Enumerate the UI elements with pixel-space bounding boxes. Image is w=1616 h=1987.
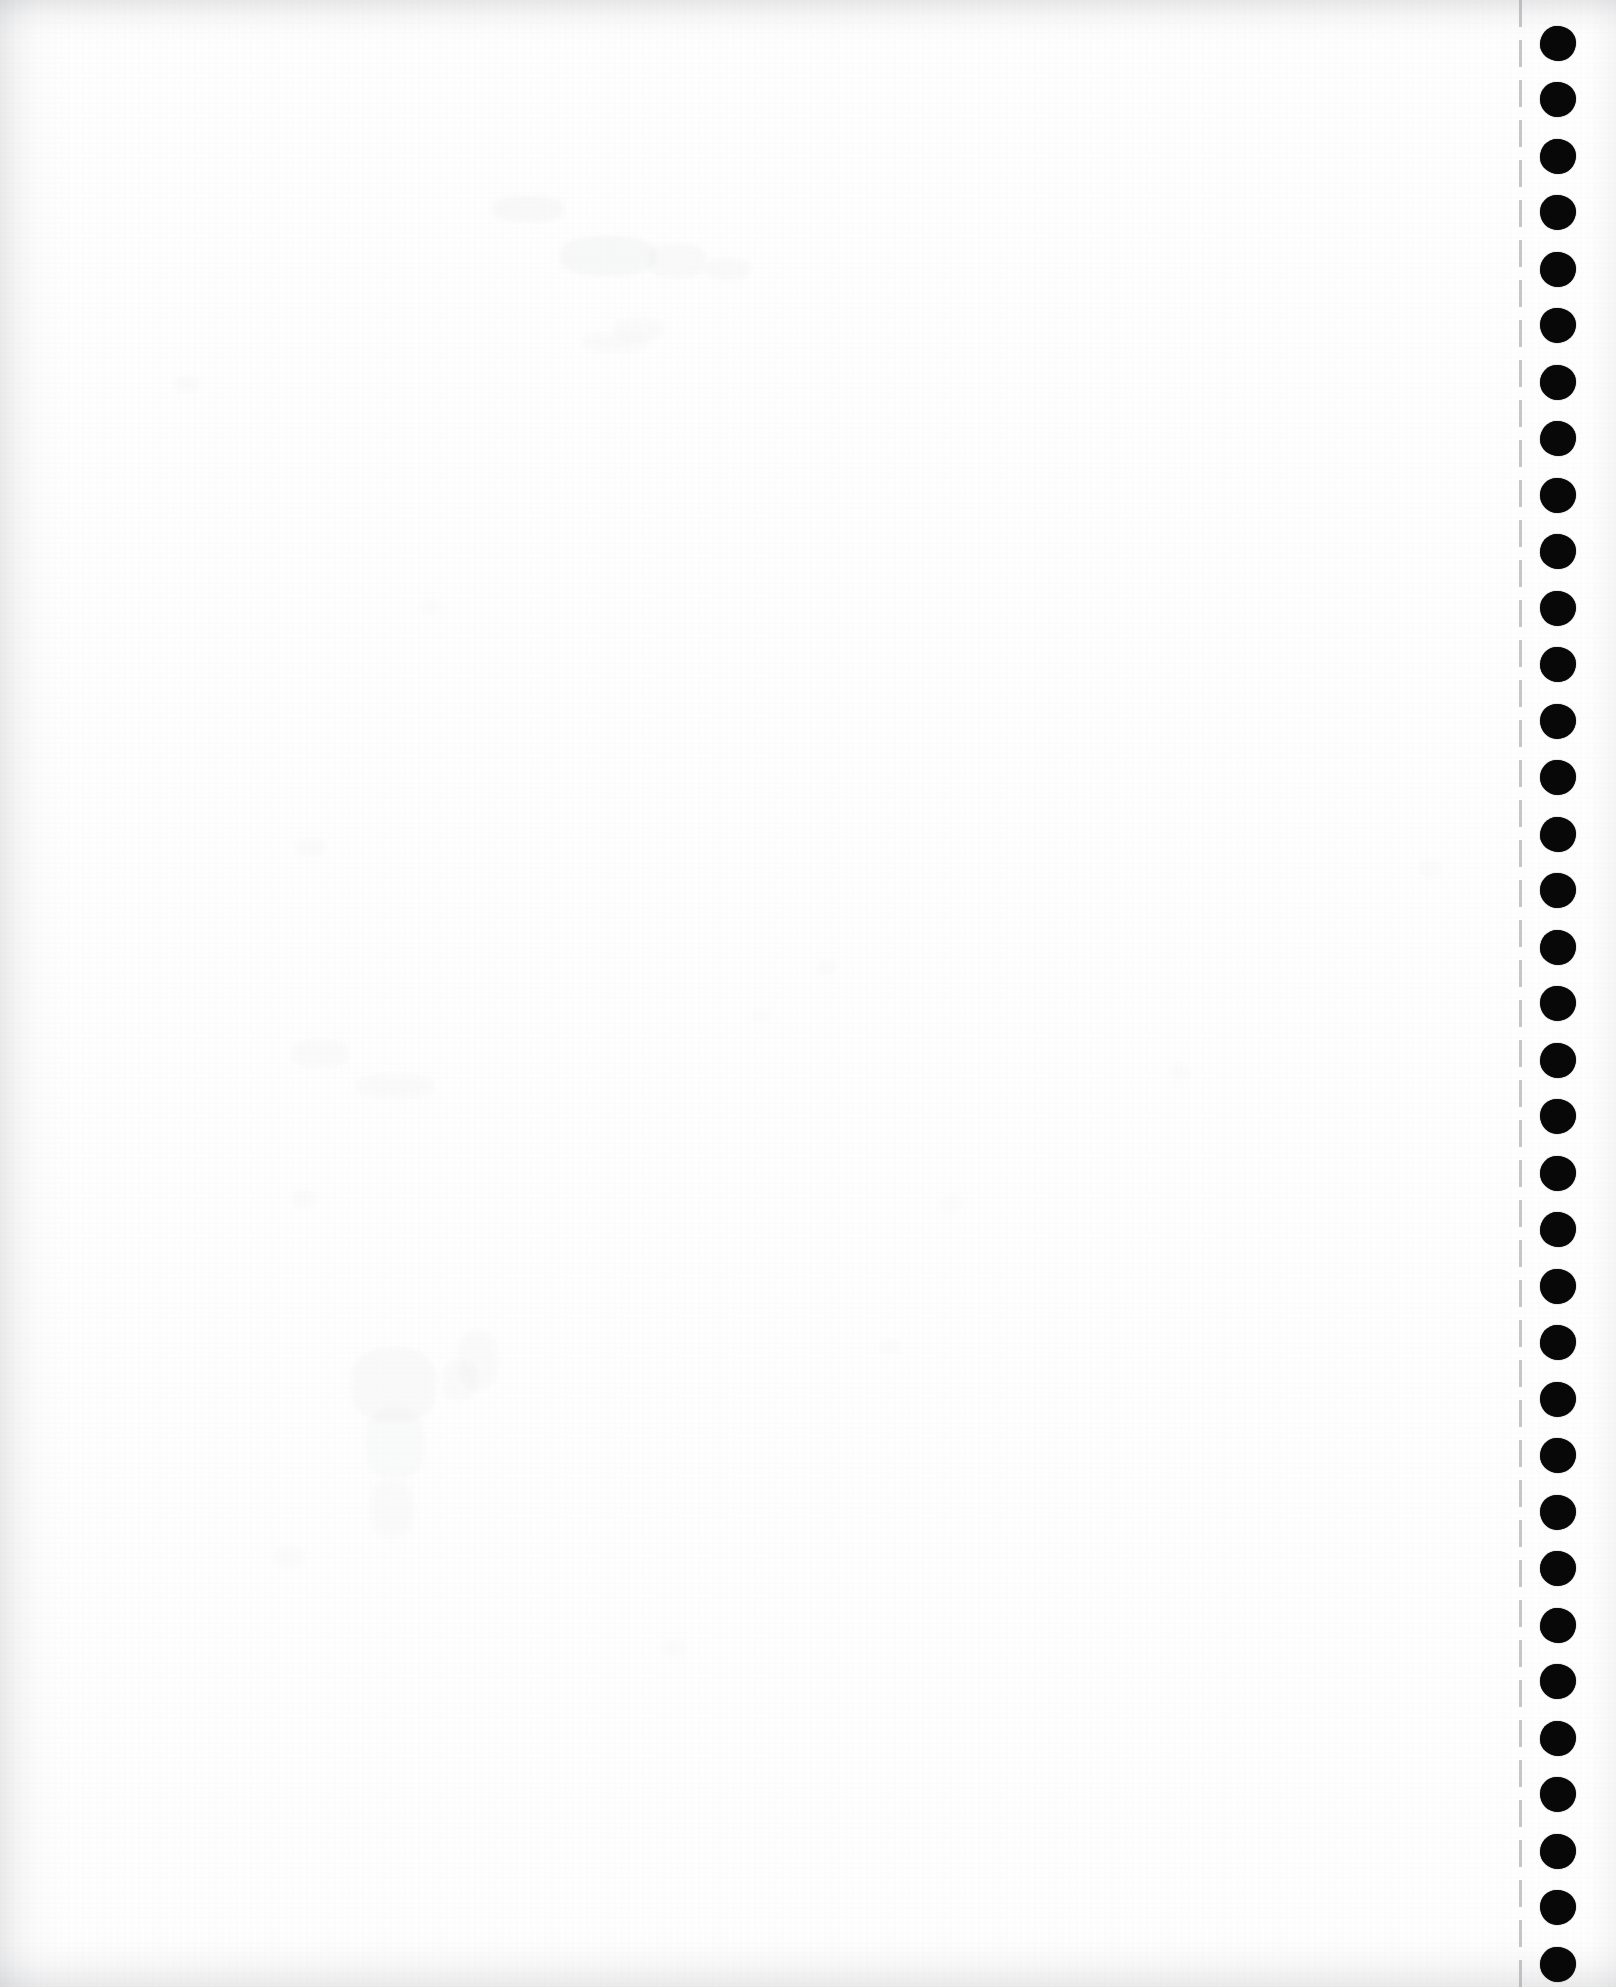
ghost-smudge bbox=[818, 960, 836, 974]
sprocket-feed-strip bbox=[1522, 0, 1616, 1987]
ghost-smudge bbox=[706, 258, 750, 280]
ghost-smudge bbox=[880, 1340, 900, 1354]
sprocket-hole bbox=[1540, 421, 1576, 456]
sprocket-hole bbox=[1540, 308, 1576, 343]
sprocket-hole bbox=[1540, 817, 1576, 852]
ghost-smudge bbox=[366, 1408, 424, 1478]
ghost-smudge bbox=[660, 1640, 686, 1656]
sprocket-hole bbox=[1540, 195, 1576, 230]
ghost-smudge bbox=[582, 332, 650, 352]
sprocket-hole bbox=[1540, 591, 1576, 626]
sprocket-hole bbox=[1540, 1551, 1576, 1586]
sprocket-hole bbox=[1540, 1608, 1576, 1643]
sprocket-hole bbox=[1540, 1156, 1576, 1191]
ghost-smudge bbox=[442, 1360, 478, 1400]
sprocket-hole bbox=[1540, 26, 1576, 61]
ghost-smudge bbox=[420, 600, 442, 614]
sprocket-hole bbox=[1540, 1777, 1576, 1812]
ghost-smudge bbox=[274, 1546, 304, 1568]
ghost-smudge bbox=[648, 244, 706, 278]
ghost-smudge bbox=[614, 318, 664, 340]
sprocket-hole bbox=[1540, 1099, 1576, 1134]
sprocket-hole bbox=[1540, 760, 1576, 795]
ghost-smudge bbox=[174, 376, 200, 392]
sprocket-hole bbox=[1540, 365, 1576, 400]
sprocket-hole bbox=[1540, 1325, 1576, 1360]
ghost-smudge bbox=[292, 1040, 348, 1068]
ghost-smudge bbox=[560, 236, 656, 276]
sprocket-hole bbox=[1540, 1269, 1576, 1304]
ghost-smudge bbox=[356, 1074, 434, 1098]
sprocket-hole bbox=[1540, 1382, 1576, 1417]
sprocket-hole bbox=[1540, 1890, 1576, 1925]
sprocket-hole bbox=[1540, 930, 1576, 965]
sprocket-hole bbox=[1540, 1834, 1576, 1869]
ghost-smudge bbox=[370, 1480, 414, 1538]
sprocket-hole bbox=[1540, 873, 1576, 908]
sprocket-hole bbox=[1540, 252, 1576, 287]
sprocket-hole bbox=[1540, 1212, 1576, 1247]
ghost-smudge bbox=[292, 1190, 316, 1208]
sprocket-hole bbox=[1540, 1664, 1576, 1699]
sprocket-hole bbox=[1540, 1495, 1576, 1530]
sprocket-hole bbox=[1540, 647, 1576, 682]
page-content-text bbox=[0, 0, 1, 1]
ghost-smudge bbox=[1420, 860, 1440, 878]
sprocket-hole bbox=[1540, 139, 1576, 174]
sprocket-hole bbox=[1540, 1947, 1576, 1982]
ghost-smudge bbox=[492, 196, 564, 222]
sprocket-hole bbox=[1540, 534, 1576, 569]
sprocket-hole bbox=[1540, 704, 1576, 739]
sprocket-hole bbox=[1540, 1438, 1576, 1473]
ghost-smudge bbox=[352, 1348, 436, 1422]
ghost-smudge bbox=[458, 1330, 498, 1390]
scanned-page bbox=[0, 0, 1616, 1987]
sprocket-hole bbox=[1540, 986, 1576, 1021]
sprocket-hole bbox=[1540, 1043, 1576, 1078]
sprocket-hole bbox=[1540, 82, 1576, 117]
ghost-smudge bbox=[1170, 1064, 1188, 1080]
page-content-area bbox=[0, 0, 1519, 1987]
ghost-smudge bbox=[296, 838, 326, 856]
ghost-smudge bbox=[752, 1010, 768, 1022]
sprocket-hole bbox=[1540, 1721, 1576, 1756]
sprocket-hole bbox=[1540, 478, 1576, 513]
ghost-smudge bbox=[940, 1196, 962, 1212]
